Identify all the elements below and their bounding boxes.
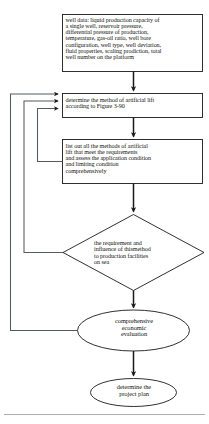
flowchart-graphics	[0, 0, 209, 424]
node-decision-requirement-label: the requirement and influence of thismet…	[94, 240, 198, 265]
node-well-data-label: well data: liquid production capacity of…	[66, 17, 202, 61]
flowchart-canvas: well data: liquid production capacity of…	[0, 0, 209, 424]
edge-feedback-from-list	[38, 109, 63, 162]
node-list-methods-label: list out all the methods of artificial l…	[66, 143, 202, 175]
node-determine-method-label: determine the method of artificial lift …	[66, 97, 202, 110]
edge-feedback-from-evaluation	[11, 94, 78, 331]
edge-feedback-from-decision	[24, 101, 63, 253]
node-project-plan-label: determine the project plan	[92, 384, 176, 397]
node-comprehensive-evaluation-label: comprehensive economic evaluation	[96, 318, 172, 338]
